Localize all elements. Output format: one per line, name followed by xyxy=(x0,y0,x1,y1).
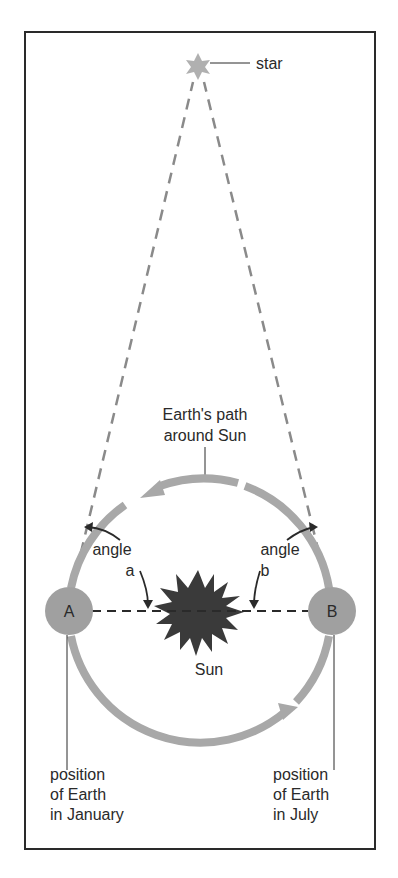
angle-a-arrow-bottom xyxy=(140,571,148,605)
january-label-line1: position xyxy=(50,766,105,783)
july-label-line2: of Earth xyxy=(273,786,329,803)
arrowhead-icon xyxy=(143,600,153,609)
orbit-label-line1: Earth's path xyxy=(163,406,248,423)
parallax-diagram: star Earth's path around Sun angle a ang… xyxy=(0,0,398,878)
orbit-label-line2: around Sun xyxy=(164,427,247,444)
sun-icon xyxy=(154,570,244,656)
star-label: star xyxy=(256,55,283,72)
star-icon xyxy=(186,53,210,80)
sightline-a xyxy=(72,82,193,590)
angle-b-arrow-bottom xyxy=(254,571,260,605)
arrowhead-icon xyxy=(249,600,259,609)
july-label-line1: position xyxy=(273,766,328,783)
point-a-label: A xyxy=(64,603,75,620)
january-label-line2: of Earth xyxy=(50,786,106,803)
angle-a-label-line1: angle xyxy=(92,541,131,558)
angle-a-label-line2: a xyxy=(126,562,135,579)
angle-b-label-line1: angle xyxy=(260,541,299,558)
point-b-label: B xyxy=(327,603,338,620)
angle-b-label-line2: b xyxy=(261,562,270,579)
sightline-b xyxy=(204,82,328,590)
july-label-line3: in July xyxy=(273,806,318,823)
january-label-line3: in January xyxy=(50,806,124,823)
sun-label: Sun xyxy=(195,661,223,678)
